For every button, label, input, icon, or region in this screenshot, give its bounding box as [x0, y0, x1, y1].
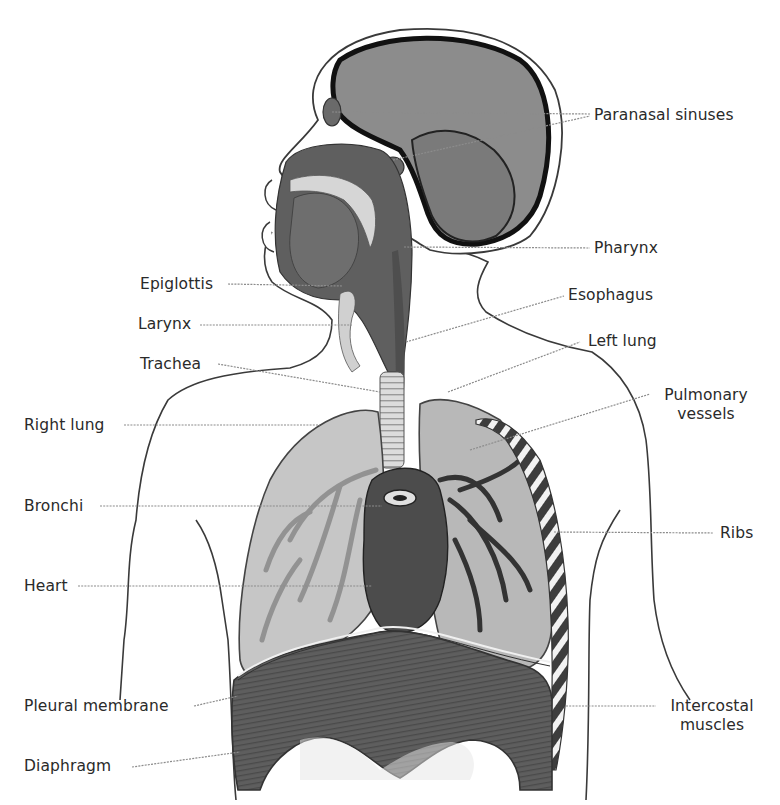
- label-pulmonary-vessels-line1: Pulmonary: [654, 386, 758, 405]
- label-diaphragm: Diaphragm: [24, 757, 111, 776]
- label-esophagus: Esophagus: [568, 286, 653, 305]
- label-intercostal-muscles-line1: Intercostal: [660, 697, 764, 716]
- label-paranasal-sinuses: Paranasal sinuses: [594, 106, 734, 125]
- label-intercostal-muscles-line2: muscles: [660, 716, 764, 735]
- label-right-lung: Right lung: [24, 416, 105, 435]
- label-ribs: Ribs: [720, 524, 753, 543]
- label-larynx: Larynx: [138, 315, 191, 334]
- respiratory-system-diagram: Epiglottis Larynx Trachea Right lung Bro…: [0, 0, 780, 805]
- label-trachea: Trachea: [140, 355, 201, 374]
- label-pleural-membrane: Pleural membrane: [24, 697, 169, 716]
- label-pulmonary-vessels-line2: vessels: [654, 405, 758, 424]
- label-heart: Heart: [24, 577, 68, 596]
- label-pharynx: Pharynx: [594, 239, 658, 258]
- trachea-shape: [380, 372, 404, 468]
- label-bronchi: Bronchi: [24, 497, 83, 516]
- label-intercostal-muscles: Intercostal muscles: [660, 697, 764, 735]
- label-pulmonary-vessels: Pulmonary vessels: [654, 386, 758, 424]
- label-epiglottis: Epiglottis: [140, 275, 213, 294]
- label-left-lung: Left lung: [588, 332, 657, 351]
- airway-upper: [262, 144, 412, 392]
